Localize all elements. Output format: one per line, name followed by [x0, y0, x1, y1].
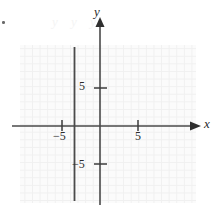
plot-svg	[0, 0, 221, 217]
y-tick-label-neg5: −5	[72, 157, 85, 172]
coordinate-graph-figure: y y y y x −5 5 5 −5	[0, 0, 221, 217]
x-axis	[12, 122, 201, 131]
x-tick-label-neg5: −5	[53, 129, 66, 144]
x-axis-label: x	[204, 116, 210, 132]
x-tick-label-pos5: 5	[135, 129, 141, 144]
x-axis-arrowhead-icon	[190, 122, 201, 131]
y-tick-label-pos5: 5	[79, 79, 85, 94]
y-axis	[96, 17, 105, 205]
y-axis-label: y	[94, 4, 100, 20]
